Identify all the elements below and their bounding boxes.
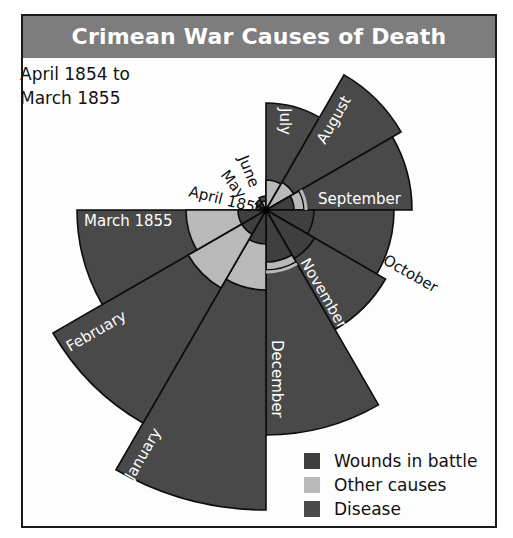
legend-swatch-wounds [304,453,320,469]
legend-label-disease: Disease [334,499,401,519]
month-label: October [380,251,442,297]
legend-item-wounds: Wounds in battle [304,449,477,473]
month-label: December [268,340,286,419]
legend-item-disease: Disease [304,497,477,521]
chart-wedges [53,75,412,510]
legend-label-wounds: Wounds in battle [334,451,477,471]
legend-item-other: Other causes [304,473,477,497]
legend-swatch-other [304,477,320,493]
legend-label-other: Other causes [334,475,446,495]
legend: Wounds in battle Other causes Disease [304,449,477,521]
month-label: July [276,107,294,135]
legend-swatch-disease [304,501,320,517]
month-label: September [318,190,402,208]
month-label: March 1855 [84,212,173,230]
